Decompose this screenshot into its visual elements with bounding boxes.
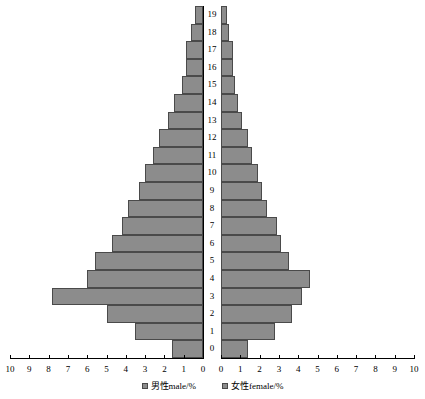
left-x-tick bbox=[184, 355, 185, 359]
left-x-tick-label-9: 9 bbox=[21, 362, 37, 376]
right-x-tick bbox=[260, 355, 261, 359]
left-x-tick-label-8: 8 bbox=[41, 362, 57, 376]
y-tick-label-14: 14 bbox=[203, 94, 221, 112]
right-x-tick bbox=[298, 355, 299, 359]
legend-label-female: 女性female/% bbox=[231, 379, 283, 392]
bar-female-age-7 bbox=[221, 217, 277, 235]
bar-row-male bbox=[10, 235, 203, 253]
bar-row-male bbox=[10, 59, 203, 77]
y-axis-tick-labels: 191817161514131211109876543210 bbox=[203, 6, 221, 358]
bar-row-male bbox=[10, 6, 203, 24]
y-tick-label-1: 1 bbox=[203, 323, 221, 341]
bar-row-male bbox=[10, 288, 203, 306]
bar-female-age-9 bbox=[221, 182, 262, 200]
bar-female-age-15 bbox=[221, 76, 235, 94]
right-x-tick bbox=[375, 355, 376, 359]
bar-row-female bbox=[221, 217, 414, 235]
bar-female-age-17 bbox=[221, 41, 233, 59]
y-tick-label-13: 13 bbox=[203, 112, 221, 130]
right-x-tick-label-5: 5 bbox=[310, 362, 326, 376]
bar-row-female bbox=[221, 24, 414, 42]
bar-row-male bbox=[10, 200, 203, 218]
bar-female-age-5 bbox=[221, 252, 289, 270]
bar-male-age-2 bbox=[107, 305, 204, 323]
bar-male-age-11 bbox=[153, 147, 203, 165]
y-tick-label-15: 15 bbox=[203, 76, 221, 94]
bar-female-age-12 bbox=[221, 129, 248, 147]
bar-male-age-19 bbox=[195, 6, 203, 24]
right-x-tick-label-3: 3 bbox=[271, 362, 287, 376]
right-x-axis bbox=[221, 358, 414, 359]
bar-row-female bbox=[221, 147, 414, 165]
bar-row-female bbox=[221, 235, 414, 253]
bar-row-female bbox=[221, 200, 414, 218]
bar-male-age-18 bbox=[191, 24, 203, 42]
female-bar-group bbox=[221, 6, 414, 358]
bar-female-age-19 bbox=[221, 6, 227, 24]
bar-row-female bbox=[221, 94, 414, 112]
bar-row-male bbox=[10, 112, 203, 130]
y-tick-label-0: 0 bbox=[203, 340, 221, 358]
bar-male-age-12 bbox=[159, 129, 203, 147]
y-tick-label-2: 2 bbox=[203, 305, 221, 323]
bar-male-age-0 bbox=[172, 340, 203, 358]
bar-female-age-2 bbox=[221, 305, 292, 323]
right-x-tick-label-0: 0 bbox=[213, 362, 229, 376]
bar-row-female bbox=[221, 41, 414, 59]
right-x-tick-label-8: 8 bbox=[367, 362, 383, 376]
y-tick-label-10: 10 bbox=[203, 164, 221, 182]
bar-row-male bbox=[10, 217, 203, 235]
bar-male-age-3 bbox=[52, 288, 203, 306]
left-x-tick bbox=[107, 355, 108, 359]
right-x-tick-label-7: 7 bbox=[348, 362, 364, 376]
bar-male-age-7 bbox=[122, 217, 203, 235]
legend-label-male: 男性male/% bbox=[151, 379, 197, 392]
bar-female-age-14 bbox=[221, 94, 238, 112]
right-x-tick-label-2: 2 bbox=[252, 362, 268, 376]
legend-item-male: 男性male/% bbox=[142, 379, 197, 392]
bar-row-female bbox=[221, 305, 414, 323]
bar-female-age-4 bbox=[221, 270, 310, 288]
bar-male-age-1 bbox=[135, 323, 203, 341]
bar-row-female bbox=[221, 323, 414, 341]
left-x-tick bbox=[87, 355, 88, 359]
left-x-tick bbox=[68, 355, 69, 359]
bar-row-male bbox=[10, 147, 203, 165]
bar-row-male bbox=[10, 270, 203, 288]
male-bar-group bbox=[10, 6, 203, 358]
bar-row-male bbox=[10, 94, 203, 112]
left-x-tick bbox=[164, 355, 165, 359]
bar-row-female bbox=[221, 59, 414, 77]
bar-female-age-6 bbox=[221, 235, 281, 253]
right-x-tick-label-10: 10 bbox=[406, 362, 422, 376]
right-x-tick bbox=[414, 355, 415, 359]
bar-row-male bbox=[10, 76, 203, 94]
plot-area: 191817161514131211109876543210 109876543… bbox=[0, 0, 425, 356]
bar-row-female bbox=[221, 6, 414, 24]
right-x-tick bbox=[221, 355, 222, 359]
y-tick-label-16: 16 bbox=[203, 59, 221, 77]
right-x-tick-label-9: 9 bbox=[387, 362, 403, 376]
bar-row-male bbox=[10, 182, 203, 200]
left-x-tick-label-6: 6 bbox=[79, 362, 95, 376]
bar-row-female bbox=[221, 270, 414, 288]
right-x-tick bbox=[337, 355, 338, 359]
left-x-tick-label-0: 0 bbox=[195, 362, 211, 376]
bar-female-age-13 bbox=[221, 112, 242, 130]
bar-row-male bbox=[10, 24, 203, 42]
right-x-tick bbox=[240, 355, 241, 359]
right-x-tick-label-1: 1 bbox=[232, 362, 248, 376]
left-x-tick-label-5: 5 bbox=[99, 362, 115, 376]
y-tick-label-6: 6 bbox=[203, 235, 221, 253]
bar-female-age-3 bbox=[221, 288, 302, 306]
left-x-tick bbox=[10, 355, 11, 359]
right-x-tick-label-6: 6 bbox=[329, 362, 345, 376]
left-x-tick-label-10: 10 bbox=[2, 362, 18, 376]
bar-row-female bbox=[221, 288, 414, 306]
legend-swatch-icon-female bbox=[222, 383, 228, 389]
bar-male-age-13 bbox=[168, 112, 203, 130]
left-x-tick bbox=[145, 355, 146, 359]
right-x-tick bbox=[356, 355, 357, 359]
bar-male-age-14 bbox=[174, 94, 203, 112]
y-tick-label-3: 3 bbox=[203, 288, 221, 306]
